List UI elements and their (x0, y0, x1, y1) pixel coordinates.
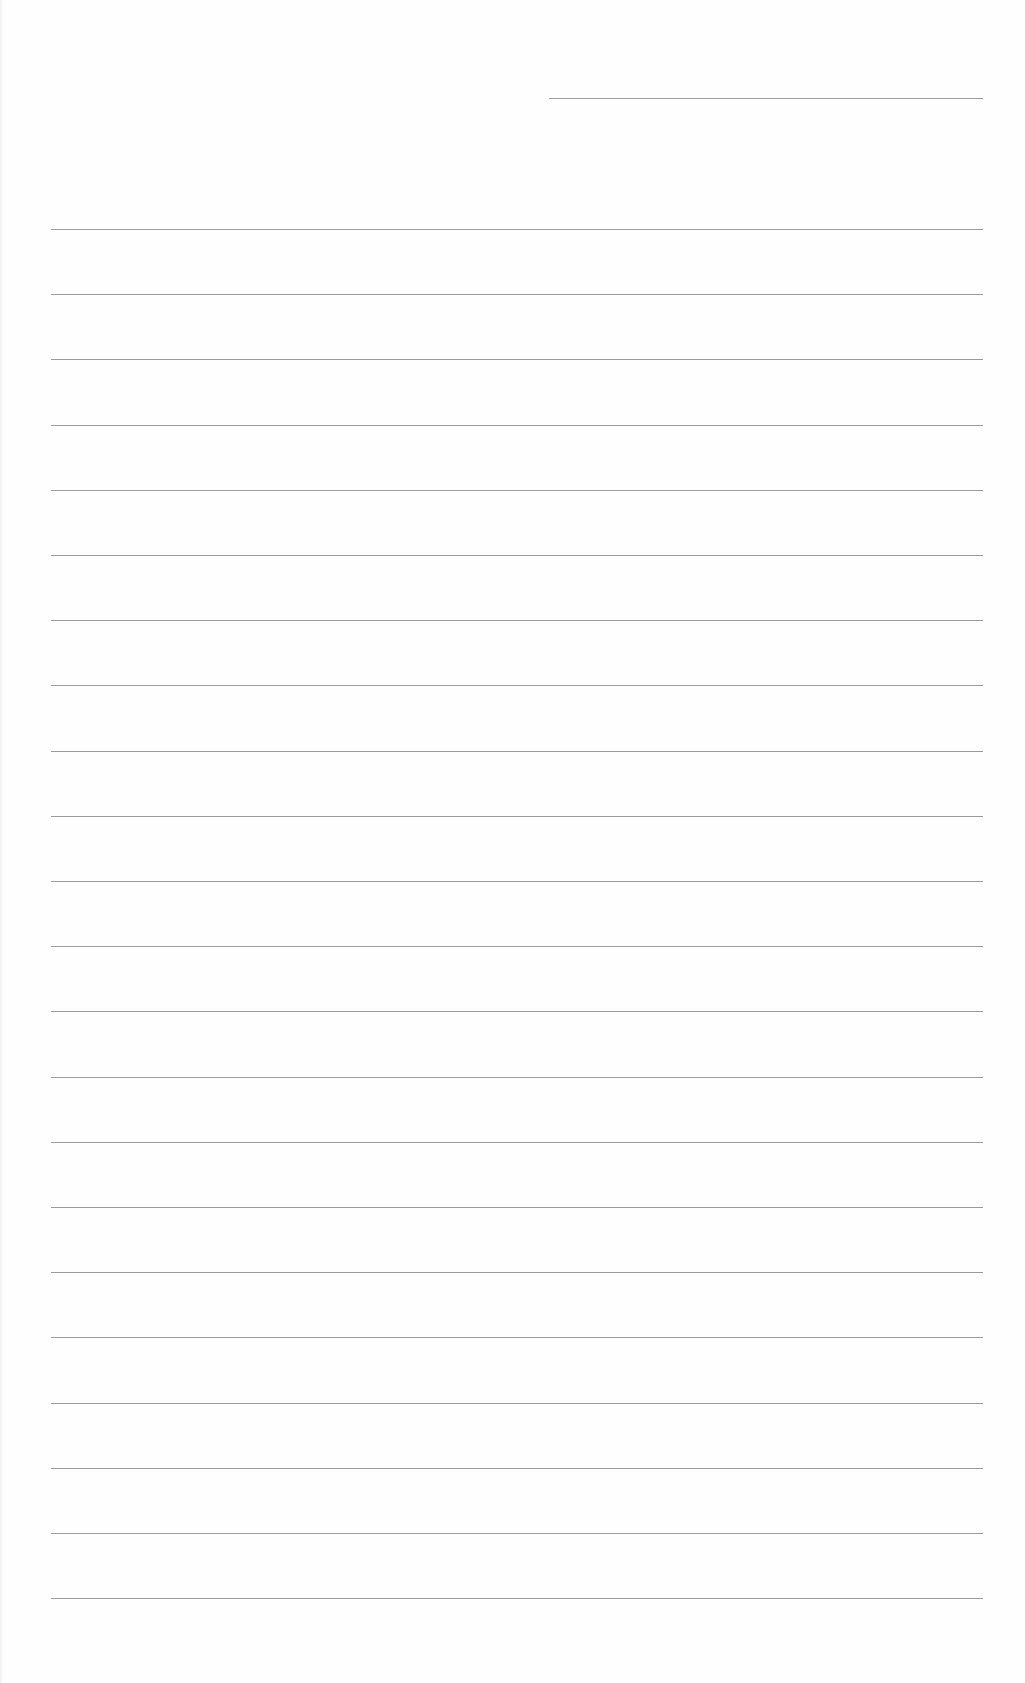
header-line (549, 98, 983, 99)
ruled-line (51, 685, 983, 686)
ruled-page (0, 0, 1025, 1683)
ruled-line (51, 1272, 983, 1273)
ruled-line (51, 1337, 983, 1338)
ruled-line (51, 1142, 983, 1143)
ruled-line (51, 1598, 983, 1599)
ruled-line (51, 1468, 983, 1469)
ruled-line (51, 425, 983, 426)
ruled-line (51, 490, 983, 491)
ruled-line (51, 620, 983, 621)
ruled-line (51, 555, 983, 556)
ruled-line (51, 946, 983, 947)
ruled-line (51, 229, 983, 230)
page-edge-shadow (0, 0, 3, 1683)
ruled-line (51, 881, 983, 882)
ruled-line (51, 1207, 983, 1208)
ruled-line (51, 359, 983, 360)
ruled-line (51, 294, 983, 295)
ruled-line (51, 1077, 983, 1078)
ruled-line (51, 1533, 983, 1534)
ruled-line (51, 751, 983, 752)
ruled-line (51, 1011, 983, 1012)
ruled-line (51, 1403, 983, 1404)
ruled-line (51, 816, 983, 817)
